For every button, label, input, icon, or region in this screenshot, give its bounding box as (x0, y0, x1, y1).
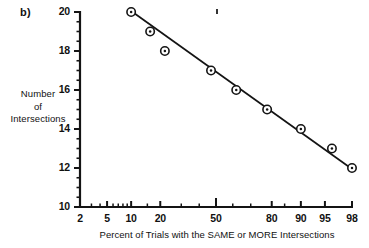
page-text-bleed (0, 244, 369, 248)
circled-dot-marker-center (149, 30, 152, 33)
circled-dot-marker-center (266, 108, 269, 111)
y-tick-label: 16 (46, 83, 70, 95)
x-axis-label: Percent of Trials with the SAME or MORE … (72, 229, 362, 240)
x-tick-label: 90 (290, 212, 312, 224)
circled-dot-marker-center (235, 89, 238, 92)
x-tick-label: 5 (96, 212, 118, 224)
figure-panel-b: b) Number of Intersections 101214161820 … (0, 0, 369, 248)
circled-dot-marker-center (300, 128, 303, 131)
fit-line (131, 11, 352, 169)
y-tick-label: 18 (46, 44, 70, 56)
circled-dot-marker-center (331, 147, 334, 150)
x-tick-label: 50 (205, 212, 227, 224)
x-tick-label: 80 (261, 212, 283, 224)
y-tick-label: 10 (46, 200, 70, 212)
y-tick-label: 20 (46, 5, 70, 17)
y-tick-label: 14 (46, 122, 70, 134)
x-tick-label: 10 (120, 212, 142, 224)
x-tick-label: 2 (69, 212, 91, 224)
y-axis-ticks (74, 12, 80, 207)
axes (79, 11, 353, 207)
circled-dot-marker-center (164, 50, 167, 53)
circled-dot-marker-center (351, 167, 354, 170)
y-tick-label: 12 (46, 161, 70, 173)
x-tick-label: 95 (314, 212, 336, 224)
x-axis-ticks (80, 198, 352, 207)
x-tick-label: 20 (149, 212, 171, 224)
fit-line-segment (131, 11, 352, 169)
circled-dot-marker-center (210, 69, 213, 72)
circled-dot-marker-center (130, 11, 133, 14)
x-tick-label: 98 (341, 212, 363, 224)
